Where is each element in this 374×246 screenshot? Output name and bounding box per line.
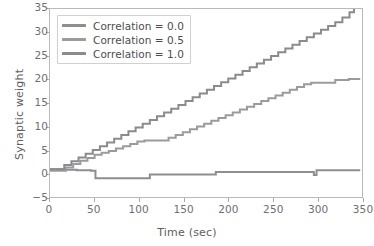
- legend-label: Correlation = 0.0: [93, 20, 184, 32]
- legend-box: Correlation = 0.0Correlation = 0.5Correl…: [57, 15, 191, 64]
- y-tick-label: 10: [34, 120, 48, 132]
- series-line-0: [50, 169, 360, 178]
- y-tick-label: 20: [34, 72, 48, 84]
- x-tick-mark: [94, 198, 95, 202]
- y-tick-label: 15: [34, 96, 48, 108]
- x-tick-mark: [184, 198, 185, 202]
- y-tick-label: 30: [34, 25, 48, 37]
- x-tick-label: 200: [218, 203, 238, 215]
- x-tick-label: 50: [87, 203, 101, 215]
- y-tick-label: 0: [41, 167, 48, 179]
- y-tick-label: 35: [34, 1, 48, 13]
- x-tick-mark: [228, 198, 229, 202]
- x-tick-label: 150: [173, 203, 193, 215]
- x-axis-label: Time (sec): [0, 226, 374, 239]
- y-tick-label: −5: [32, 191, 48, 203]
- y-tick-label: 5: [41, 144, 48, 156]
- legend-line-swatch: [62, 24, 86, 27]
- x-tick-label: 100: [129, 203, 149, 215]
- x-tick-label: 250: [263, 203, 283, 215]
- x-tick-label: 0: [46, 203, 53, 215]
- x-tick-mark: [273, 198, 274, 202]
- legend-line-swatch: [62, 38, 86, 41]
- legend-label: Correlation = 1.0: [93, 48, 184, 60]
- legend-entry-2[interactable]: Correlation = 1.0: [62, 47, 184, 60]
- y-axis-label: Synaptic weight: [13, 69, 26, 160]
- figure-canvas: Synaptic weight Time (sec) −505101520253…: [0, 0, 374, 246]
- y-tick-label: 25: [34, 49, 48, 61]
- legend-entry-0[interactable]: Correlation = 0.0: [62, 19, 184, 32]
- x-tick-mark: [139, 198, 140, 202]
- x-tick-mark: [318, 198, 319, 202]
- legend-line-swatch: [62, 52, 86, 55]
- legend-label: Correlation = 0.5: [93, 34, 184, 46]
- legend-entry-1[interactable]: Correlation = 0.5: [62, 33, 184, 46]
- x-tick-mark: [363, 198, 364, 202]
- x-tick-label: 350: [353, 203, 373, 215]
- x-tick-label: 300: [308, 203, 328, 215]
- x-tick-mark: [49, 198, 50, 202]
